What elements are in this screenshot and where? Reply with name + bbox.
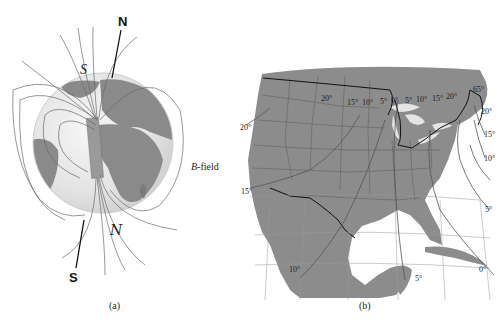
caption-b: (b) xyxy=(359,300,371,311)
rotation-axis-south xyxy=(76,220,84,268)
declination-label: 0° xyxy=(391,97,398,105)
declination-label: 15° xyxy=(484,131,495,139)
declination-label: 0° xyxy=(479,266,486,274)
declination-label: 65° xyxy=(473,86,484,94)
b-field-label: B-field xyxy=(191,161,219,172)
declination-label: 10° xyxy=(362,99,373,107)
declination-label: 20° xyxy=(240,124,251,132)
geographic-north-label: N xyxy=(118,14,127,29)
declination-label: 20° xyxy=(321,95,332,103)
declination-label: 20° xyxy=(481,108,492,116)
declination-label: 15° xyxy=(241,188,252,196)
magnetic-north-pole-label: N xyxy=(110,222,122,238)
declination-label: 10° xyxy=(289,266,300,274)
declination-label: 5° xyxy=(485,206,492,214)
declination-label: 10° xyxy=(416,96,427,104)
declination-label: 10° xyxy=(484,155,495,163)
declination-label: 5° xyxy=(380,98,387,106)
rotation-axis-north xyxy=(112,30,121,78)
declination-label: 15° xyxy=(347,99,358,107)
magnetic-south-pole-label: S xyxy=(80,62,87,78)
declination-label: 5° xyxy=(405,97,412,105)
declination-label: 5° xyxy=(415,275,422,283)
caption-a: (a) xyxy=(109,300,120,311)
declination-label: 15° xyxy=(432,95,443,103)
declination-label: 20° xyxy=(446,93,457,101)
geographic-south-label: S xyxy=(69,270,78,285)
